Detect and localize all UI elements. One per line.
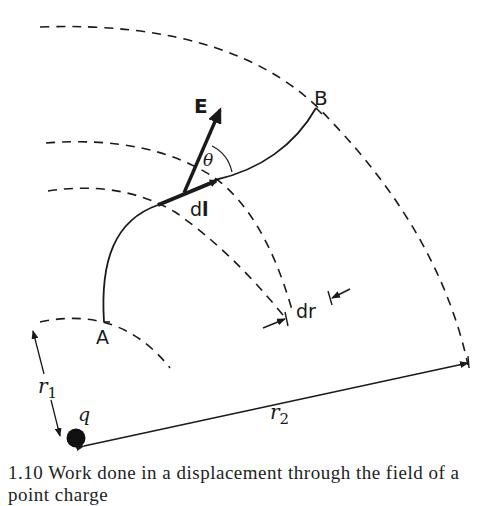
label-q: q [78, 405, 90, 424]
label-b: B [314, 88, 328, 108]
label-dr: dr [296, 302, 316, 321]
equipotential-arc-2 [46, 142, 292, 310]
label-r2: r2 [270, 402, 289, 427]
label-e: E [194, 96, 208, 116]
r1-dimension-upper [33, 331, 44, 374]
r1-dimension-lower [51, 400, 60, 436]
label-theta: θ [203, 152, 213, 169]
label-a: A [96, 328, 109, 347]
label-r1: r1 [38, 376, 57, 401]
label-dl: dl [190, 200, 209, 219]
equipotential-arc-1 [48, 188, 283, 315]
figure-caption: 1.10 Work done in a displacement through… [8, 462, 502, 506]
theta-arc [212, 146, 232, 172]
point-charge [67, 429, 86, 448]
path-a-to-b [103, 108, 316, 322]
